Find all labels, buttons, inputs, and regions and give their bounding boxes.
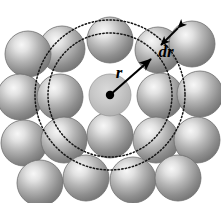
radial-shell-svg: r dr — [0, 0, 221, 203]
particle — [155, 155, 201, 201]
particle — [63, 155, 109, 201]
thickness-label: dr — [158, 42, 174, 61]
particle — [87, 112, 133, 158]
particle — [1, 120, 47, 166]
particle — [37, 74, 83, 120]
particle — [17, 160, 63, 203]
radius-label: r — [116, 63, 123, 82]
particle — [87, 17, 133, 63]
particle — [137, 73, 183, 119]
particle — [5, 31, 51, 77]
radial-shell-figure: r dr — [0, 0, 221, 203]
particle — [110, 157, 156, 203]
